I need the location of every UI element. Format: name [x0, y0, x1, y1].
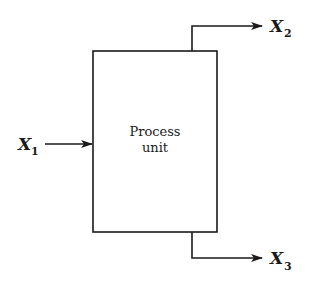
- output-arrow-x2: [192, 26, 262, 51]
- process-diagram: Process unit X 1 X 2 X 3: [0, 0, 314, 281]
- stream-label-x1: X: [17, 134, 32, 154]
- stream-label-x2: X: [269, 16, 284, 36]
- output-arrow-x3: [192, 232, 262, 258]
- stream-sub-x2: 2: [284, 27, 292, 40]
- stream-sub-x3: 3: [284, 260, 292, 273]
- process-unit-label-line1: Process: [129, 124, 180, 139]
- process-unit-label-line2: unit: [142, 140, 169, 155]
- stream-sub-x1: 1: [31, 145, 39, 158]
- stream-label-x3: X: [269, 248, 284, 268]
